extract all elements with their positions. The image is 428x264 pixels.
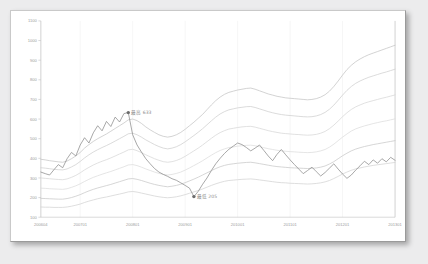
y-tick-label-500: 500 xyxy=(30,136,38,141)
annotation-label-peak-high: 最高 633 xyxy=(131,109,151,116)
x-tick-label-201201: 201201 xyxy=(336,222,350,227)
y-tick-label-1100: 1100 xyxy=(28,19,37,24)
x-tick-label-200901: 200901 xyxy=(178,222,192,227)
line-series-5 xyxy=(41,141,395,199)
axis-layer xyxy=(38,21,395,217)
line-series-1 xyxy=(41,45,395,162)
y-tick-label-100: 100 xyxy=(30,215,38,220)
y-tick-label-700: 700 xyxy=(30,97,38,102)
line-series-highlight xyxy=(41,113,395,197)
annotation-marker-peak-high xyxy=(127,111,130,114)
series-layer xyxy=(41,45,395,207)
plot-area: 最高 633最低 205 110010009008007006005004003… xyxy=(11,11,405,241)
line-series-2 xyxy=(41,69,395,170)
y-tick-label-1000: 1000 xyxy=(28,38,38,43)
annotation-label-trough-low: 最低 205 xyxy=(197,193,217,200)
line-series-4 xyxy=(41,119,395,189)
x-tick-label-201001: 201001 xyxy=(231,222,245,227)
x-tick-label-201301: 201301 xyxy=(388,222,402,227)
x-tick-label-200604: 200604 xyxy=(34,222,48,227)
line-chart: 最高 633最低 205 110010009008007006005004003… xyxy=(11,11,405,241)
y-tick-label-400: 400 xyxy=(30,156,38,161)
y-tick-label-600: 600 xyxy=(30,117,38,122)
y-tick-label-200: 200 xyxy=(30,195,38,200)
y-tick-label-800: 800 xyxy=(30,77,38,82)
x-axis-labels: 2006042007012008012009012010012011012012… xyxy=(34,222,403,227)
annotation-marker-trough-low xyxy=(192,195,195,198)
x-tick-label-200701: 200701 xyxy=(73,222,87,227)
x-tick-label-200801: 200801 xyxy=(126,222,140,227)
grid-layer xyxy=(41,21,395,217)
chart-frame: 最高 633最低 205 110010009008007006005004003… xyxy=(10,10,406,242)
y-tick-label-900: 900 xyxy=(30,58,38,63)
y-axis-labels: 11001000900800700600500400300200100 xyxy=(28,19,38,220)
y-tick-label-300: 300 xyxy=(30,176,38,181)
x-tick-label-201101: 201101 xyxy=(283,222,297,227)
line-series-6 xyxy=(41,162,395,207)
